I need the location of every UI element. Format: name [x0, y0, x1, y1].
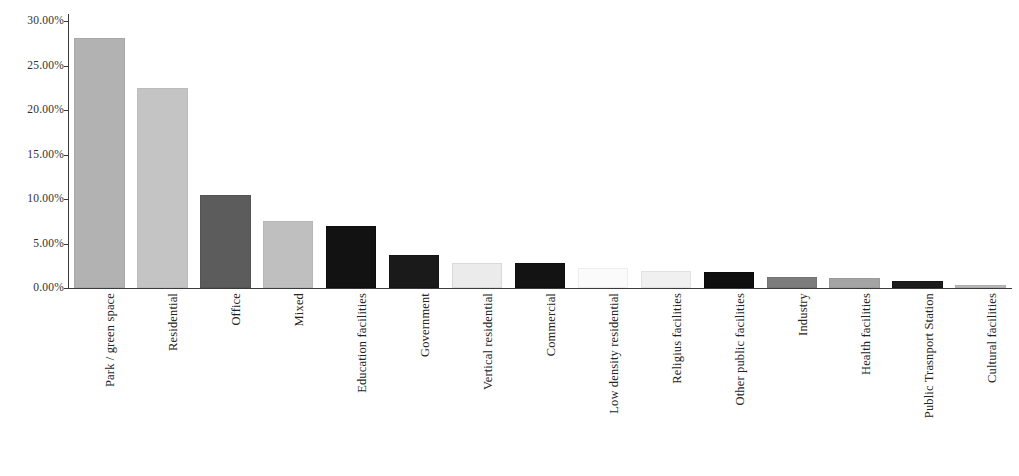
- x-axis-category-label: Low density residential: [608, 293, 621, 414]
- x-axis-category-label-text: Health facilities: [860, 293, 873, 375]
- x-axis-category-label: Industry: [797, 293, 810, 336]
- bar: [829, 278, 879, 288]
- bar: [389, 255, 439, 288]
- y-axis-tick-label: 30.00%: [2, 15, 64, 27]
- x-axis-category-label: Office: [230, 293, 243, 326]
- bar-chart: 0.00%5.00%10.00%15.00%20.00%25.00%30.00%…: [0, 0, 1019, 476]
- x-axis-category-label-text: Office: [230, 293, 243, 326]
- y-axis-tick-label: 0.00%: [2, 282, 64, 294]
- x-axis-category-label: Cultural facilities: [986, 293, 999, 383]
- bar: [955, 285, 1005, 288]
- x-axis-category-label-text: Industry: [797, 293, 810, 336]
- x-axis-category-label-text: Vertical residential: [482, 293, 495, 390]
- x-axis-category-labels: Park / green spaceResidentialOfficeMixed…: [68, 289, 1012, 476]
- x-axis-category-label: Vertical residential: [482, 293, 495, 390]
- y-axis-tick-label: 5.00%: [2, 238, 64, 250]
- y-axis-tick-label: 25.00%: [2, 60, 64, 72]
- x-axis-category-label-text: Mixed: [293, 293, 306, 326]
- x-axis-category-label-text: Low density residential: [608, 293, 621, 414]
- y-axis: 0.00%5.00%10.00%15.00%20.00%25.00%30.00%: [0, 0, 64, 476]
- x-axis-category-label: Residential: [167, 293, 180, 351]
- x-axis-category-label: Health facilities: [860, 293, 873, 375]
- bar: [263, 221, 313, 288]
- bar: [578, 268, 628, 288]
- x-axis-category-label-text: Education facilities: [356, 293, 369, 393]
- bar: [74, 38, 124, 288]
- bar: [641, 271, 691, 288]
- bar: [704, 272, 754, 288]
- x-axis-category-label-text: Government: [419, 293, 432, 357]
- x-axis-category-label: Other public facilities: [734, 293, 747, 405]
- x-axis-category-label-text: Other public facilities: [734, 293, 747, 405]
- bar: [515, 263, 565, 288]
- x-axis-category-label: Public Trasnport Station: [923, 293, 936, 418]
- bar: [452, 263, 502, 288]
- x-axis-category-label-text: Cultural facilities: [986, 293, 999, 383]
- bar: [326, 226, 376, 288]
- bar: [200, 195, 250, 288]
- x-axis-category-label-text: Residential: [167, 293, 180, 351]
- x-axis-category-label: Commercial: [545, 293, 558, 356]
- bar: [892, 281, 942, 288]
- y-axis-tick-label: 20.00%: [2, 104, 64, 116]
- x-axis-category-label-text: Religius facilities: [671, 293, 684, 384]
- x-axis-category-label: Park / green space: [104, 293, 117, 387]
- bar-series: [68, 0, 1012, 289]
- x-axis-category-label: Mixed: [293, 293, 306, 326]
- y-axis-tick-label: 15.00%: [2, 149, 64, 161]
- bar: [767, 277, 817, 288]
- x-axis-category-label-text: Public Trasnport Station: [923, 293, 936, 418]
- x-axis-category-label: Government: [419, 293, 432, 357]
- y-axis-tick-label: 10.00%: [2, 193, 64, 205]
- x-axis-category-label-text: Commercial: [545, 293, 558, 356]
- bar: [137, 88, 187, 288]
- x-axis-category-label: Religius facilities: [671, 293, 684, 384]
- x-axis-category-label: Education facilities: [356, 293, 369, 393]
- x-axis-category-label-text: Park / green space: [104, 293, 117, 387]
